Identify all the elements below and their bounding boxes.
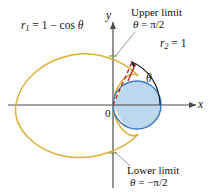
y-axis-label: y [106, 9, 111, 22]
upper-limit-text: Upper limit [131, 6, 182, 18]
upper-limit-equation: θ = π/2 [133, 18, 182, 30]
lower-limit-value: −π/2 [147, 176, 167, 188]
x-axis-arrowhead [189, 102, 196, 108]
y-axis-arrowhead [110, 22, 116, 29]
cardioid-equation-body: = 1 − cos [29, 19, 77, 31]
origin-label: 0 [105, 107, 111, 119]
upper-limit-value: π/2 [150, 18, 164, 30]
lower-limit-text: Lower limit [127, 164, 179, 176]
x-axis-label: x [198, 98, 203, 111]
circle-equation-body: = 1 [168, 37, 186, 49]
lower-limit-equals: = [135, 176, 147, 188]
cardioid-theta-symbol: θ [78, 19, 84, 31]
polar-region-figure: r1 = 1 − cos θ Upper limit θ = π/2 r2 = … [0, 0, 209, 192]
theta-angle-label: θ [146, 72, 152, 85]
lower-limit-equation: θ = −π/2 [130, 176, 179, 188]
upper-limit-label: Upper limit θ = π/2 [131, 6, 182, 31]
lower-limit-label: Lower limit θ = −π/2 [127, 164, 179, 189]
upper-limit-equals: = [138, 18, 150, 30]
upper-limit-leader-line [116, 32, 136, 56]
cardioid-equation-label: r1 = 1 − cos θ [21, 19, 83, 34]
circle-equation-label: r2 = 1 [160, 37, 186, 52]
